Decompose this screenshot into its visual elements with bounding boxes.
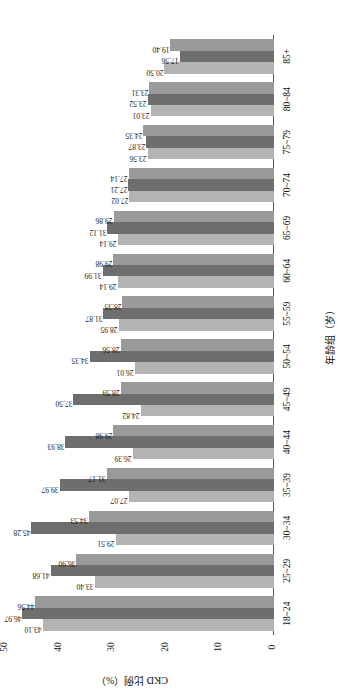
category-label: 45~49	[282, 387, 292, 411]
bar-value-label: 45.28	[13, 528, 30, 536]
bar-slot: 44.56	[6, 596, 274, 607]
bar[interactable]	[118, 276, 274, 287]
bar-value-label: 34.35	[72, 356, 89, 364]
bar[interactable]	[146, 136, 274, 147]
bar-group: 26.3938.9329.98	[6, 425, 274, 459]
bar-slot: 24.35	[6, 125, 274, 136]
bar[interactable]	[122, 296, 274, 307]
bar-slot: 28.59	[6, 382, 274, 393]
bar[interactable]	[103, 308, 274, 319]
bar-group: 29.1431.1229.86	[6, 211, 274, 245]
bar[interactable]	[51, 565, 274, 576]
bar-slot: 34.53	[6, 511, 274, 522]
bar[interactable]	[121, 382, 274, 393]
bar[interactable]	[133, 448, 274, 459]
bar-value-label: 27.14	[111, 174, 128, 182]
bar-group: 43.1046.9744.56	[6, 596, 274, 630]
category-label: 30~34	[282, 516, 292, 540]
bar[interactable]	[76, 554, 274, 565]
bar-value-label: 41.68	[33, 571, 50, 579]
bar[interactable]	[121, 339, 274, 350]
bar-slot: 26.39	[6, 448, 274, 459]
bar-slot: 20.50	[6, 62, 274, 73]
bar-value-label: 31.12	[89, 228, 106, 236]
bar-slot: 24.82	[6, 405, 274, 416]
bar-slot: 31.12	[6, 222, 274, 233]
bar[interactable]	[141, 405, 274, 416]
bar-slot: 31.87	[6, 308, 274, 319]
y-tick-label: 30	[106, 642, 116, 652]
bar[interactable]	[113, 254, 274, 265]
bar[interactable]	[113, 425, 274, 436]
bar[interactable]	[170, 39, 274, 50]
bar-slot: 29.14	[6, 276, 274, 287]
bar[interactable]	[180, 51, 274, 62]
bar[interactable]	[107, 222, 274, 233]
bar[interactable]	[89, 511, 274, 522]
bar-group: 27.0227.2127.14	[6, 168, 274, 202]
category-label: 50~54	[282, 344, 292, 368]
y-tick-label: 40	[53, 642, 63, 652]
bar[interactable]	[118, 234, 274, 245]
bar-value-label: 33.40	[77, 582, 94, 590]
bar[interactable]	[149, 82, 274, 93]
bar[interactable]	[35, 596, 274, 607]
category-label: 60~64	[282, 259, 292, 283]
bar-value-label: 43.10	[25, 625, 42, 633]
bar-slot: 26.01	[6, 362, 274, 373]
bar-slot: 34.35	[6, 351, 274, 362]
bar[interactable]	[43, 619, 274, 630]
bar[interactable]	[95, 576, 274, 587]
category-label: 80~84	[282, 87, 292, 111]
bar[interactable]	[119, 319, 274, 330]
bar-value-label: 28.56	[103, 345, 120, 353]
bar-value-label: 20.50	[146, 68, 163, 76]
bar-group: 23.5623.8724.35	[6, 125, 274, 159]
bar[interactable]	[116, 534, 274, 545]
bar-value-label: 46.97	[4, 614, 21, 622]
bar-slot: 28.56	[6, 339, 274, 350]
bar-slot: 29.98	[6, 425, 274, 436]
category-label: 40~44	[282, 430, 292, 454]
bar-group: 26.0134.3528.56	[6, 339, 274, 373]
y-tick-label: 20	[160, 642, 170, 652]
bar-value-label: 38.93	[47, 442, 64, 450]
bar-value-label: 23.01	[133, 111, 150, 119]
bar[interactable]	[103, 265, 274, 276]
bar[interactable]	[148, 94, 274, 105]
bar-slot: 17.56	[6, 51, 274, 62]
bar-group: 29.1431.9929.98	[6, 254, 274, 288]
bar-slot: 29.51	[6, 534, 274, 545]
bar-value-label: 23.56	[130, 154, 147, 162]
bar-slot: 36.90	[6, 554, 274, 565]
bar-slot: 41.68	[6, 565, 274, 576]
bar[interactable]	[129, 168, 274, 179]
bar[interactable]	[129, 191, 274, 202]
bar-value-label: 28.95	[101, 325, 118, 333]
bar[interactable]	[128, 179, 274, 190]
bar-value-label: 26.39	[115, 454, 132, 462]
bar[interactable]	[31, 522, 274, 533]
y-tick-label: 0	[267, 645, 277, 650]
bar[interactable]	[22, 608, 274, 619]
bar[interactable]	[107, 468, 274, 479]
bar[interactable]	[135, 362, 274, 373]
category-label: 25~29	[282, 559, 292, 583]
bar[interactable]	[164, 62, 274, 73]
bar-value-label: 24.35	[126, 131, 143, 139]
bar[interactable]	[151, 105, 274, 116]
bar-group: 27.0739.9731.17	[6, 468, 274, 502]
bar-chart-figure: CKD 比例（%） 年龄组（岁） 01020304050 43.1046.974…	[0, 0, 345, 691]
category-label: 35~39	[282, 473, 292, 497]
bar-slot: 29.98	[6, 254, 274, 265]
bar[interactable]	[143, 125, 274, 136]
bar[interactable]	[114, 211, 274, 222]
bar[interactable]	[129, 491, 274, 502]
bar-value-label: 39.97	[42, 485, 59, 493]
bar-value-label: 23.87	[128, 142, 145, 150]
bar-value-label: 27.02	[111, 196, 128, 204]
bar-value-label: 31.17	[89, 474, 106, 482]
plot-area: 01020304050 43.1046.9744.5633.4041.6836.…	[6, 35, 274, 635]
bar[interactable]	[148, 148, 274, 159]
bar-value-label: 31.87	[85, 314, 102, 322]
